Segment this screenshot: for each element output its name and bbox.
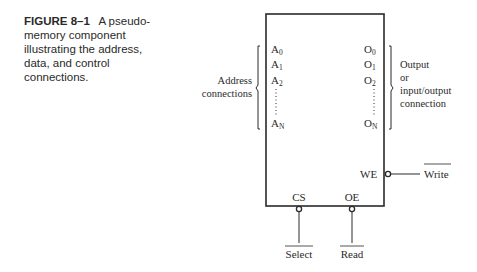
address-group-label-line2: connections — [202, 88, 252, 99]
pin-a0: A0 — [271, 43, 283, 57]
address-brace — [256, 46, 260, 129]
address-group-label-line1: Address — [218, 75, 252, 86]
address-pins: A0 A1 A2 AN — [271, 43, 285, 131]
memory-component-diagram: A0 A1 A2 AN O0 O1 O2 ON Address connecti… — [0, 0, 477, 272]
pin-oe: OE — [345, 191, 360, 203]
output-group-label-line1: Output — [400, 59, 429, 70]
pin-o1: O1 — [364, 58, 376, 72]
pin-o0: O0 — [364, 43, 376, 57]
pin-o2: O2 — [364, 74, 376, 88]
pin-we: WE — [360, 168, 377, 180]
output-group-label-line2: or — [400, 72, 409, 83]
select-signal-label: Select — [286, 248, 313, 260]
we-inversion-bubble — [385, 171, 390, 176]
write-signal-label: Write — [424, 168, 449, 180]
read-signal-label: Read — [341, 248, 364, 260]
pin-a2: A2 — [271, 74, 283, 88]
output-brace — [389, 46, 393, 129]
pin-an: AN — [271, 117, 285, 131]
output-group-label-line3: input/output — [400, 85, 451, 96]
oe-inversion-bubble — [349, 206, 354, 211]
cs-inversion-bubble — [296, 206, 301, 211]
pin-cs: CS — [292, 191, 305, 203]
pin-on: ON — [364, 117, 378, 131]
output-pins: O0 O1 O2 ON — [364, 43, 378, 131]
pin-a1: A1 — [271, 58, 283, 72]
output-group-label-line4: connection — [400, 98, 447, 109]
